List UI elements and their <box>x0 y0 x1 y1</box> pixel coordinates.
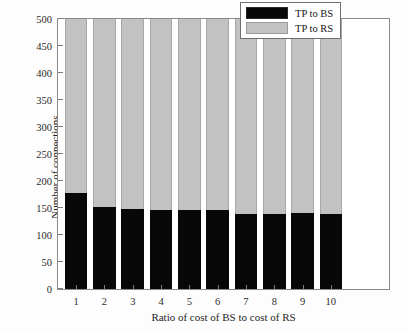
y-tick-label-300: 300 <box>36 122 58 133</box>
legend-swatch-icon-gray <box>246 22 288 34</box>
legend-label: TP to BS <box>295 8 333 19</box>
y-tick-label-500: 500 <box>36 14 58 25</box>
x-axis-ticks: 12345678910 <box>58 19 389 289</box>
legend-swatch-icon-black <box>246 7 288 19</box>
y-tick-label-250: 250 <box>36 149 58 160</box>
plot-area: 050100150200250300350400450500 123456789… <box>57 18 390 290</box>
y-tick-label-450: 450 <box>36 41 58 52</box>
y-tick-label-100: 100 <box>36 230 58 241</box>
x-tick-label-2: 2 <box>102 289 107 307</box>
legend-label: TP to RS <box>295 23 333 34</box>
x-tick-label-7: 7 <box>243 289 248 307</box>
x-tick-label-6: 6 <box>215 289 220 307</box>
legend-item-tp-to-rs: TP to RS <box>246 22 333 34</box>
chart-legend: TP to BSTP to RS <box>240 2 341 39</box>
x-tick-label-1: 1 <box>74 289 79 307</box>
x-tick-label-3: 3 <box>130 289 135 307</box>
y-tick-label-400: 400 <box>36 68 58 79</box>
x-tick-label-5: 5 <box>187 289 192 307</box>
x-tick-label-9: 9 <box>300 289 305 307</box>
y-tick-label-50: 50 <box>42 257 59 268</box>
x-tick-label-10: 10 <box>326 289 337 307</box>
y-tick-label-150: 150 <box>36 203 58 214</box>
x-tick-label-4: 4 <box>158 289 163 307</box>
y-tick-label-0: 0 <box>47 284 58 295</box>
legend-item-tp-to-bs: TP to BS <box>246 7 333 19</box>
x-axis-title: Ratio of cost of BS to cost of RS <box>57 311 390 323</box>
stacked-bar-chart-figure: Number of connections 050100150200250300… <box>0 0 408 334</box>
y-tick-label-350: 350 <box>36 95 58 106</box>
x-tick-label-8: 8 <box>272 289 277 307</box>
y-tick-label-200: 200 <box>36 176 58 187</box>
